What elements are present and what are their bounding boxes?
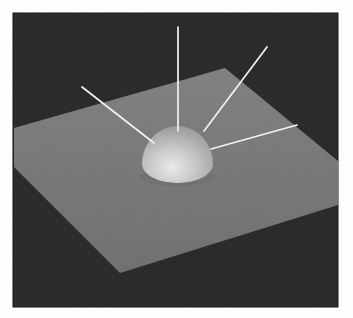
figure-3d-rendering — [0, 0, 353, 318]
film-grain-overlay — [13, 13, 338, 307]
rendered-figure-svg — [0, 0, 353, 318]
